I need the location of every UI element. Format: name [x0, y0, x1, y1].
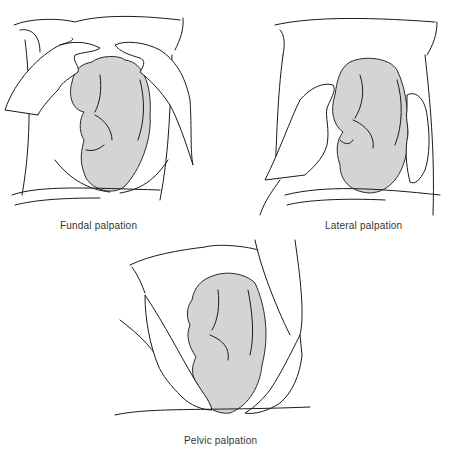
caption-pelvic-palpation: Pelvic palpation: [184, 435, 257, 446]
fetus-shape: [333, 58, 408, 193]
lateral-palpation-illustration: [225, 0, 450, 220]
fetus-shape: [71, 56, 151, 191]
left-hand: [265, 84, 334, 180]
panel-fundal-palpation: Fundal palpation: [0, 0, 225, 230]
pelvic-palpation-illustration: [110, 225, 340, 420]
panel-pelvic-palpation: Pelvic palpation: [110, 225, 340, 453]
right-hand: [406, 94, 429, 183]
fundal-palpation-illustration: [0, 0, 225, 200]
panel-lateral-palpation: Lateral palpation: [225, 0, 450, 230]
